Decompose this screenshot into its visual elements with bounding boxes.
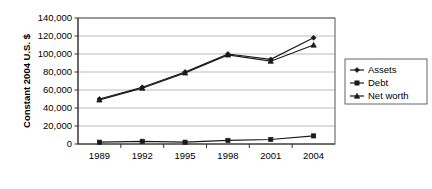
legend-label: Assets — [368, 64, 397, 75]
x-tick-label: 1992 — [132, 150, 153, 161]
x-tick-label: 2004 — [303, 150, 324, 161]
legend-label: Debt — [368, 77, 388, 88]
series-debt — [97, 134, 315, 145]
data-point — [311, 134, 315, 138]
x-axis-tick-labels: 198919921995199820012004 — [89, 150, 324, 161]
x-tick-label: 2001 — [260, 150, 281, 161]
x-tick-label: 1995 — [175, 150, 196, 161]
data-point — [311, 42, 316, 47]
legend-marker-square-icon — [355, 81, 359, 85]
data-point — [97, 140, 101, 144]
data-point — [226, 138, 230, 142]
plot-frame — [78, 18, 335, 144]
plot-area-border — [78, 18, 335, 144]
x-axis-ticks — [121, 144, 292, 148]
x-tick-label: 1998 — [217, 150, 238, 161]
gridlines — [78, 18, 335, 126]
legend: AssetsDebtNet worth — [345, 59, 427, 104]
data-point — [183, 140, 187, 144]
y-tick-label: 120,000 — [38, 30, 72, 41]
y-axis-title: Constant 2004 U.S. $ — [21, 33, 32, 128]
y-tick-label: 40,000 — [43, 102, 72, 113]
series-line — [99, 45, 313, 100]
x-tick-label: 1989 — [89, 150, 110, 161]
y-axis-tick-labels: 020,00040,00060,00080,000100,000120,0001… — [38, 12, 72, 149]
y-tick-label: 60,000 — [43, 84, 72, 95]
line-chart: 020,00040,00060,00080,000100,000120,0001… — [0, 0, 432, 189]
series-line — [99, 136, 313, 142]
data-point — [140, 139, 144, 143]
y-tick-label: 80,000 — [43, 66, 72, 77]
legend-label: Net worth — [368, 90, 409, 101]
y-tick-label: 140,000 — [38, 12, 72, 23]
y-tick-label: 100,000 — [38, 48, 72, 59]
chart-container: 020,00040,00060,00080,000100,000120,0001… — [0, 0, 432, 189]
y-tick-label: 0 — [67, 138, 72, 149]
y-axis-title-text: Constant 2004 U.S. $ — [21, 33, 32, 128]
y-tick-label: 20,000 — [43, 120, 72, 131]
data-point — [269, 137, 273, 141]
